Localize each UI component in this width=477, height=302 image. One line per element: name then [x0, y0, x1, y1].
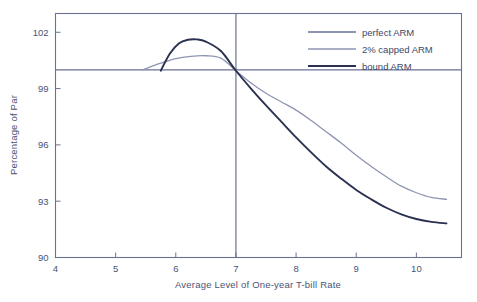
y-tick-label: 90	[38, 252, 49, 263]
x-tick-label: 8	[293, 263, 298, 274]
x-tick-label: 6	[173, 263, 178, 274]
x-tick-label: 7	[233, 263, 238, 274]
x-axis-title: Average Level of One-year T-bill Rate	[175, 279, 341, 290]
y-axis-title: Percentage of Par	[8, 95, 19, 175]
chart-svg: 90939699102 45678910 Average Level of On…	[0, 0, 477, 302]
x-tick-label: 10	[411, 263, 422, 274]
legend-label-capped-arm: 2% capped ARM	[362, 44, 433, 55]
y-tick-label: 99	[38, 83, 49, 94]
x-tick-label: 4	[53, 263, 58, 274]
legend-label-bound-arm: bound ARM	[362, 61, 412, 72]
x-tick-label: 9	[354, 263, 359, 274]
y-tick-label: 102	[33, 27, 49, 38]
x-tick-label: 5	[113, 263, 118, 274]
chart-container: 90939699102 45678910 Average Level of On…	[0, 0, 477, 302]
y-tick-label: 96	[38, 139, 49, 150]
legend-label-perfect-arm: perfect ARM	[362, 27, 414, 38]
y-tick-label: 93	[38, 196, 49, 207]
